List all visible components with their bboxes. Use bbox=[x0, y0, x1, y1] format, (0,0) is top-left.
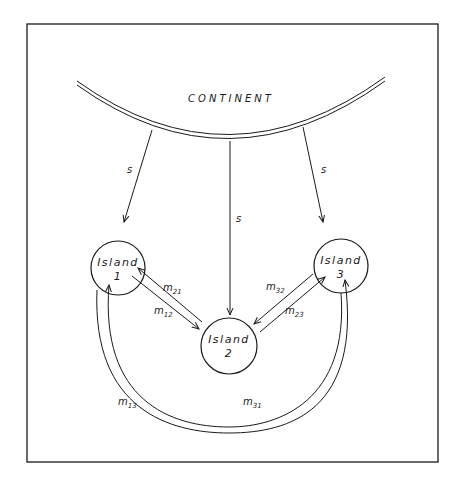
island-2-number: 2 bbox=[225, 347, 234, 360]
arrow-continent-to-island-3 bbox=[303, 127, 323, 222]
arrow-m32 bbox=[254, 274, 313, 324]
continent-island-arrows bbox=[124, 127, 323, 315]
label-m23: m23 bbox=[285, 305, 304, 319]
diagram-frame bbox=[27, 24, 438, 462]
island-1-name: Island bbox=[97, 256, 139, 269]
label-s-island-1: s bbox=[127, 164, 132, 175]
label-m12: m12 bbox=[154, 305, 173, 319]
label-m21: m21 bbox=[163, 282, 182, 296]
continent-label: CONTINENT bbox=[188, 93, 274, 104]
island-1-number: 1 bbox=[114, 270, 123, 283]
island-3-name: Island bbox=[320, 254, 362, 267]
island-2-name: Island bbox=[208, 333, 250, 346]
island-3: Island 3 bbox=[314, 239, 368, 293]
label-s-island-2: s bbox=[236, 213, 241, 224]
island-2: Island 2 bbox=[201, 318, 257, 374]
migration-diagram: CONTINENT s s s Island 1 Island 3 Island… bbox=[0, 0, 455, 482]
island-3-number: 3 bbox=[337, 268, 346, 281]
label-m31: m31 bbox=[243, 396, 262, 410]
label-s-island-3: s bbox=[321, 164, 326, 175]
label-m13: m13 bbox=[118, 396, 137, 410]
arrow-continent-to-island-1 bbox=[124, 130, 152, 222]
continent-coastline bbox=[77, 77, 385, 139]
island-1: Island 1 bbox=[91, 241, 145, 295]
label-m32: m32 bbox=[266, 281, 285, 295]
